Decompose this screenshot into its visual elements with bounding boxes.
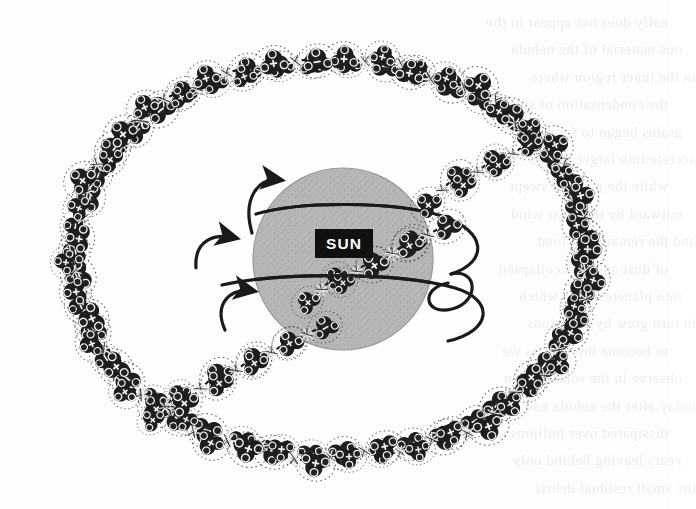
rotation-arrow-bottom [221,290,254,330]
particle-pair [251,37,339,87]
sun-label: SUN [315,229,373,258]
particle-pair [362,429,437,474]
particle-pair [250,432,338,484]
sun-label-text: SUN [326,235,362,252]
particle-pair [388,407,474,470]
rotation-arrow-middle [196,237,236,268]
sun-body [253,168,433,350]
particle-pair [193,331,279,411]
